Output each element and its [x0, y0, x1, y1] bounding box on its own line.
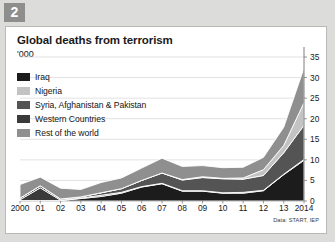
y-axis-tick-label: 25	[310, 93, 328, 103]
figure-container: 2 Global deaths from terrorism '000 0510…	[0, 0, 335, 242]
legend-item: Syria, Afghanistan & Pakistan	[17, 98, 146, 112]
chart-source: Data: START, IEP	[273, 217, 319, 223]
legend-label: Syria, Afghanistan & Pakistan	[35, 100, 146, 110]
figure-number-badge: 2	[4, 3, 25, 22]
legend-item: Western Countries	[17, 112, 146, 126]
legend-label: Rest of the world	[35, 128, 99, 138]
chart-legend: IraqNigeriaSyria, Afghanistan & Pakistan…	[17, 70, 146, 140]
legend-item: Rest of the world	[17, 126, 146, 140]
legend-swatch-icon	[17, 101, 30, 109]
legend-swatch-icon	[17, 129, 30, 137]
y-axis-tick-label: 15	[310, 134, 328, 144]
legend-label: Nigeria	[35, 86, 62, 96]
legend-swatch-icon	[17, 73, 30, 81]
x-axis-tick-label: 2014	[291, 203, 317, 213]
legend-item: Iraq	[17, 70, 146, 84]
legend-label: Iraq	[35, 72, 50, 82]
legend-swatch-icon	[17, 115, 30, 123]
legend-label: Western Countries	[35, 114, 105, 124]
y-axis-tick-label: 20	[310, 114, 328, 124]
legend-item: Nigeria	[17, 84, 146, 98]
y-axis-tick-label: 35	[310, 52, 328, 62]
chart-card: Global deaths from terrorism '000 051015…	[5, 26, 327, 234]
y-axis-tick-label: 30	[310, 73, 328, 83]
y-axis-tick-label: 5	[310, 175, 328, 185]
y-axis-tick-label: 10	[310, 155, 328, 165]
legend-swatch-icon	[17, 87, 30, 95]
